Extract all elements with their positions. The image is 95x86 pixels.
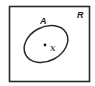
point-x-dot [44, 44, 47, 47]
point-x-label: x [50, 42, 56, 53]
set-a-label: A [39, 16, 47, 26]
universal-set-label: R [77, 10, 84, 20]
venn-diagram: R A x [0, 0, 95, 86]
